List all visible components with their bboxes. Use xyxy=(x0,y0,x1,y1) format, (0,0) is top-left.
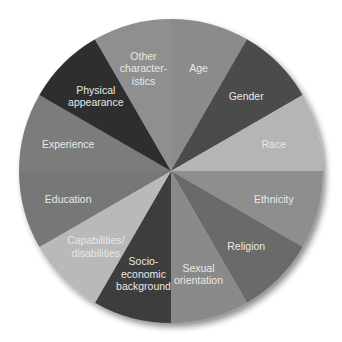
slice-label-capabilities-disabilities: Capabilities/disabilities xyxy=(67,234,124,259)
pie-slices xyxy=(19,19,323,323)
slice-label-age: Age xyxy=(189,62,208,74)
slice-label-race: Race xyxy=(262,138,287,150)
slice-label-gender: Gender xyxy=(229,90,265,102)
slice-label-ethnicity: Ethnicity xyxy=(254,193,294,205)
slice-label-education: Education xyxy=(45,193,92,205)
slice-label-experience: Experience xyxy=(42,138,95,150)
slice-label-religion: Religion xyxy=(227,240,265,252)
pie-chart: AgeGenderRaceEthnicityReligionSexualorie… xyxy=(0,0,342,342)
slice-label-physical-appearance: Physicalappearance xyxy=(68,84,124,109)
